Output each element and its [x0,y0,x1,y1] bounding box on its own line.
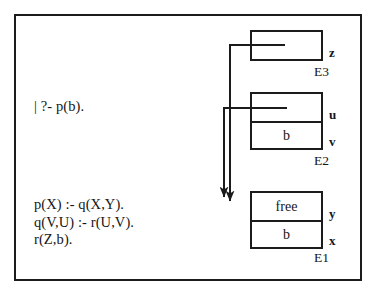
e1-cell-x-value: b [283,227,290,243]
environment-label-e2: E2 [314,153,329,169]
e2-cell-v-value: b [283,128,290,144]
environment-frame-e1: free y b x [250,191,323,247]
e3-box: z [250,30,323,61]
e1-slot-label-x: x [329,234,336,247]
e3-cell-z: z [252,32,321,59]
e2-box: u b v [250,92,323,150]
e2-cell-v: b v [252,121,321,148]
environment-label-e3: E3 [314,64,329,80]
clauses-text: p(X) :- q(X,Y). q(V,U) :- r(U,V). r(Z,b)… [34,196,134,249]
figure-canvas: | ?- p(b). p(X) :- q(X,Y). q(V,U) :- r(U… [0,0,378,296]
e2-slot-label-v: v [329,135,336,148]
e1-cell-x: b x [252,220,321,247]
environment-frame-e3: z [250,30,323,61]
environment-frame-e2: u b v [250,92,323,150]
e1-cell-y-value: free [276,199,298,215]
e3-slot-label-z: z [329,46,335,59]
query-text: | ?- p(b). [34,98,84,115]
e1-box: free y b x [250,191,323,249]
e1-slot-label-y: y [329,207,336,220]
e2-slot-label-u: u [329,108,336,121]
environment-label-e1: E1 [314,250,329,266]
e2-cell-u: u [252,94,321,121]
e1-cell-y: free y [252,193,321,220]
